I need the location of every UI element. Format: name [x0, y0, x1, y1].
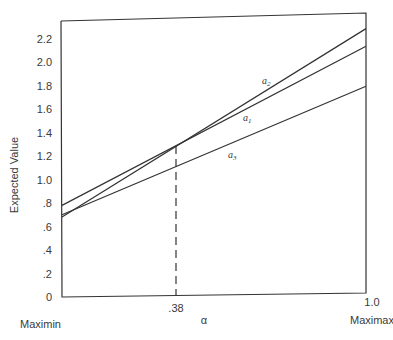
- y-axis-ticks: 0.2.4.6.81.01.21.41.61.82.02.2: [37, 33, 52, 304]
- x-right-label: Maximax: [350, 314, 393, 326]
- y-tick-label: 1.6: [37, 103, 52, 115]
- y-tick-label: 0: [46, 291, 52, 303]
- y-tick-label: 1.8: [37, 80, 52, 92]
- y-tick-label: .4: [43, 244, 52, 256]
- y-tick-label: 1.4: [37, 127, 52, 139]
- series-label-a2: a2: [262, 75, 271, 88]
- y-axis-label: Expected Value: [8, 137, 20, 213]
- y-tick-label: .8: [43, 197, 52, 209]
- series-lines: [62, 29, 366, 217]
- series-label-a1: a1: [243, 112, 252, 125]
- y-tick-label: 1.0: [37, 174, 52, 186]
- chart: 0.2.4.6.81.01.21.41.61.82.02.2 a2 a1 a3 …: [0, 0, 393, 340]
- series-line-a1: [62, 46, 366, 205]
- x-left-label: Maximin: [20, 318, 61, 330]
- y-tick-label: 2.2: [37, 33, 52, 45]
- x-tick-038: .38: [168, 302, 183, 314]
- series-line-a3: [62, 86, 366, 215]
- plot-frame: [61, 13, 366, 297]
- y-tick-label: .2: [43, 268, 52, 280]
- series-line-a2: [62, 29, 366, 217]
- x-axis-label: α: [201, 314, 208, 326]
- y-tick-label: 1.2: [37, 150, 52, 162]
- y-tick-label: .6: [43, 221, 52, 233]
- y-tick-label: 2.0: [37, 56, 52, 68]
- x-tick-1: 1.0: [364, 296, 379, 308]
- series-label-a3: a3: [228, 149, 237, 162]
